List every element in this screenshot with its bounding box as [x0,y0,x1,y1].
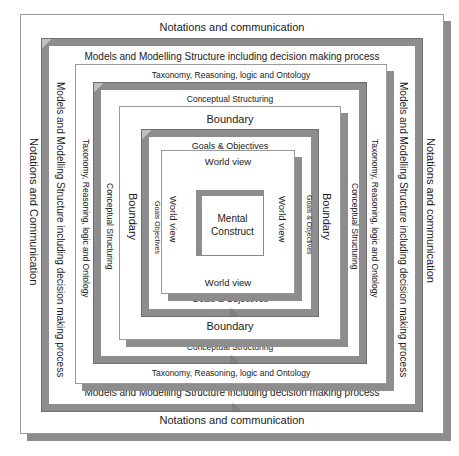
layer-models-left-label: Models and Modelling Structure including… [55,82,65,377]
layer-worldview-right-label: World view [278,196,288,242]
layer-taxonomy-right-label: Taxonomy, Reasoning, logic and Ontology [371,139,380,298]
layer-boundary-top-label: Boundary [120,114,340,125]
layer-goals-left-label: Goals Objectives [154,201,161,254]
layer-worldview-left-label: World view [169,196,179,242]
layer-conceptual-bottom-label: Conceptual Structuring [101,343,359,352]
layer-notations-bottom-label: Notations and communication [21,415,443,426]
layer-conceptual-top-label: Conceptual Structuring [101,95,359,104]
layer-boundary-bottom-label: Boundary [120,321,340,332]
layer-models-right-label: Models and Modelling Structure including… [398,82,408,377]
mental-construct-line-1: Mental [211,213,254,226]
layer-notations-left-label: Notations and Communication [28,138,39,285]
layer-worldview-top-label: World view [162,157,294,167]
mental-construct-line-2: Construct [211,226,254,239]
layer-conceptual-right-label: Conceptual Structuring [351,183,360,269]
layer-conceptual-left-label: Conceptual Structuring [106,183,115,269]
nested-layers-diagram: Notations and communication Notations an… [0,0,459,456]
layer-worldview-bottom-label: World view [162,278,294,288]
layer-boundary-right-label: Boundary [321,193,332,240]
layer-goals-right-label: Goals & Objectives [306,195,313,255]
layer-models-bottom-label: Models and Modelling Structure including… [49,388,415,398]
layer-models-top-label: Models and Modelling Structure including… [49,52,415,62]
layer-notations-right-label: Notations and communication [425,138,436,283]
layer-taxonomy-top-label: Taxonomy, Reasoning, logic and Ontology [76,71,386,80]
mental-construct-box: Mental Construct [196,190,264,256]
layer-boundary-left-label: Boundary [127,193,138,240]
mental-construct-text: Mental Construct [211,213,254,238]
layer-notations-top-label: Notations and communication [21,22,443,33]
layer-taxonomy-left-label: Taxonomy, Reasoning, logic and Ontology [82,139,91,298]
layer-goals-bottom-label: Goals & Objectives [149,295,311,304]
layer-taxonomy-bottom-label: Taxonomy, Reasoning, logic and Ontology [76,369,386,378]
